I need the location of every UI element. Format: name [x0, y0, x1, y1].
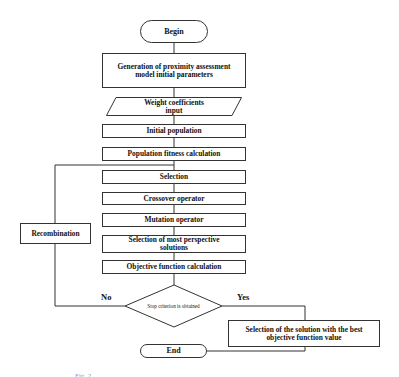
- decision-label: Stop criterion is obtained: [147, 302, 199, 310]
- end-label: End: [166, 347, 180, 355]
- crossover-label: Crossover operator: [143, 195, 204, 203]
- crossover-box: Crossover operator: [102, 192, 246, 205]
- objective-label: Objective function calculation: [127, 263, 222, 271]
- objective-function-box: Objective function calculation: [102, 260, 246, 274]
- initial-population-box: Initial population: [102, 124, 246, 138]
- best-solution-box: Selection of the solution with the best …: [228, 320, 380, 347]
- no-label: No: [101, 292, 111, 302]
- end-terminal: End: [140, 344, 207, 358]
- generation-label-line2: model initial parameters: [135, 71, 213, 79]
- selection-box: Selection: [102, 170, 246, 184]
- generation-parameters-box: Generation of proximity assessment model…: [102, 53, 246, 88]
- best-solution-label-line2: objective function value: [266, 334, 341, 342]
- weight-coefficients-input: Weight coefficients input: [106, 97, 242, 116]
- recombination-label: Recombination: [31, 230, 79, 238]
- weight-label-line2: input: [166, 107, 183, 115]
- begin-label: Begin: [164, 28, 184, 36]
- selection-label: Selection: [160, 173, 188, 181]
- most-perspective-label-line2: solutions: [160, 244, 188, 252]
- most-perspective-box: Selection of most perspective solutions: [102, 235, 246, 253]
- decision-label-holder: Stop criterion is obtained: [125, 299, 222, 313]
- figure-caption: Fig. 2.: [75, 369, 335, 377]
- fitness-calculation-box: Population fitness calculation: [102, 147, 246, 161]
- mutation-label: Mutation operator: [145, 216, 204, 224]
- recombination-box: Recombination: [20, 223, 91, 244]
- begin-terminal: Begin: [140, 20, 208, 43]
- initial-population-label: Initial population: [146, 127, 201, 135]
- yes-label: Yes: [237, 292, 249, 302]
- mutation-box: Mutation operator: [102, 213, 246, 227]
- fitness-label: Population fitness calculation: [128, 150, 221, 158]
